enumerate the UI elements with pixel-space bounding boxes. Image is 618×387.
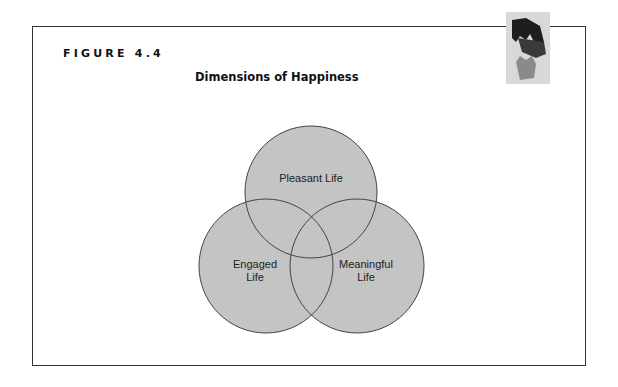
label-pleasant: Pleasant Life [279, 172, 343, 184]
venn-diagram: Pleasant LifeEngagedLifeMeaningfulLife [0, 0, 618, 387]
